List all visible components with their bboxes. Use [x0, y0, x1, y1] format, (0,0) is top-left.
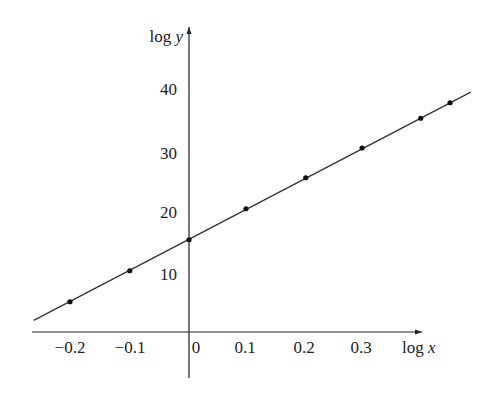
x-tick-label: −0.2 [55, 338, 86, 357]
y-tick-label: 10 [160, 265, 177, 284]
data-point [359, 145, 364, 150]
x-tick-label: 0.1 [234, 338, 255, 357]
x-tick-label: 0.2 [293, 338, 314, 357]
data-point [303, 175, 308, 180]
data-point [186, 237, 191, 242]
y-tick-label: 30 [160, 144, 177, 163]
x-axis-label: log x [402, 338, 436, 357]
y-tick-label: 40 [160, 80, 177, 99]
data-point [127, 268, 132, 273]
best-fit-line [34, 92, 471, 320]
chart-canvas: log y log x −0.2−0.100.10.20.3 40302010 [0, 0, 496, 396]
y-axis-label: log y [149, 27, 183, 46]
data-point [418, 116, 423, 121]
x-tick-label: 0 [192, 338, 201, 357]
y-tick-label: 20 [160, 203, 177, 222]
data-point [447, 100, 452, 105]
x-tick-label: −0.1 [115, 338, 146, 357]
x-tick-labels: −0.2−0.100.10.20.3 [55, 338, 372, 357]
data-point [243, 206, 248, 211]
x-tick-label: 0.3 [350, 338, 371, 357]
data-point [67, 299, 72, 304]
